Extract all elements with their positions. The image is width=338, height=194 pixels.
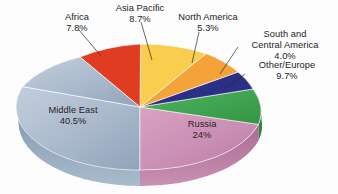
pie-chart-figure: Africa 7.8% Asia Pacific 8.7% North Amer… — [0, 0, 338, 194]
slice-label-russia-percent: 24% — [175, 130, 229, 141]
slice-label-middle-east: Middle East 40.5% — [36, 105, 110, 127]
slice-label-asia-pacific-name: Asia Pacific — [106, 3, 174, 14]
slice-label-north-america-percent: 5.3% — [168, 23, 248, 34]
slice-label-africa: Africa 7.8% — [53, 12, 101, 34]
slice-label-middle-east-percent: 40.5% — [36, 116, 110, 127]
slice-label-asia-pacific-percent: 8.7% — [106, 14, 174, 25]
slice-label-south-central-america-name-line2: Central America — [238, 40, 332, 51]
slice-label-russia: Russia 24% — [175, 119, 229, 141]
slice-label-north-america-name: North America — [168, 12, 248, 23]
slice-label-south-central-america-name-line1: South and — [238, 29, 332, 40]
slice-label-other-europe-name: Other/Europe — [243, 60, 331, 71]
slice-label-asia-pacific: Asia Pacific 8.7% — [106, 3, 174, 25]
slice-label-other-europe: Other/Europe 9.7% — [243, 60, 331, 82]
slice-label-south-central-america: South and Central America 4.0% — [238, 29, 332, 63]
slice-label-north-america: North America 5.3% — [168, 12, 248, 34]
slice-label-other-europe-percent: 9.7% — [243, 71, 331, 82]
slice-label-middle-east-name: Middle East — [36, 105, 110, 116]
slice-label-africa-percent: 7.8% — [53, 23, 101, 34]
slice-label-russia-name: Russia — [175, 119, 229, 130]
slice-label-africa-name: Africa — [53, 12, 101, 23]
